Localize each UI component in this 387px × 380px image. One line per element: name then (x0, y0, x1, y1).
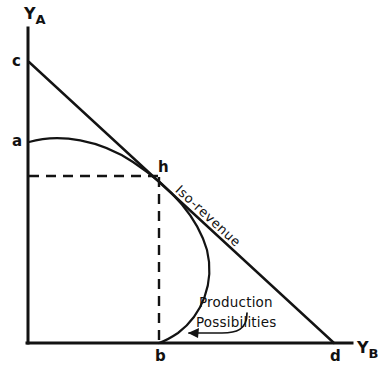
chart-canvas (0, 0, 387, 380)
point-label-h: h (158, 160, 169, 175)
x-axis-title-subscript: B (369, 346, 379, 361)
production-possibilities-curve (29, 138, 209, 343)
production-possibilities-label-line2: Possibilities (196, 316, 277, 330)
y-axis-title-subscript: A (36, 12, 46, 27)
x-axis-title: YB (357, 340, 379, 356)
y-axis-title: YA (24, 6, 46, 22)
y-axis-title-main: Y (24, 4, 36, 23)
point-label-a: a (12, 134, 22, 149)
point-label-d: d (330, 349, 341, 364)
production-possibilities-label-line1: Production (199, 296, 273, 310)
point-label-c: c (12, 54, 21, 69)
production-possibilities-chart: YA YB c a h b d Iso-revenue Production P… (0, 0, 387, 380)
x-axis-title-main: Y (357, 338, 369, 357)
point-label-b: b (155, 349, 166, 364)
